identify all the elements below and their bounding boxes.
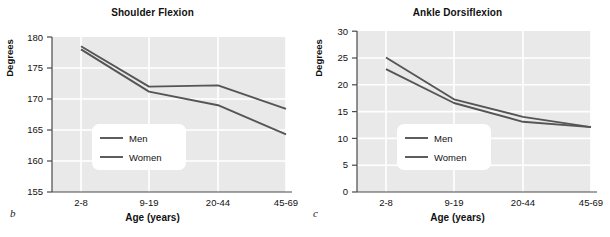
y-tick-label: 30 bbox=[337, 26, 348, 37]
y-tick-label: 160 bbox=[27, 155, 43, 166]
y-tick-label: 170 bbox=[27, 93, 43, 104]
x-tick-label: 2-8 bbox=[74, 197, 88, 208]
x-tick-label: 45-69 bbox=[274, 197, 298, 208]
x-tick-label: 45-69 bbox=[579, 197, 603, 208]
legend-label-women: Women bbox=[129, 152, 162, 163]
x-tick-label: 20-44 bbox=[511, 197, 535, 208]
legend-label-women: Women bbox=[434, 152, 467, 163]
y-tick-label: 5 bbox=[343, 159, 348, 170]
chart-legend: Men Women bbox=[92, 124, 186, 170]
y-axis-ticks bbox=[47, 37, 52, 192]
y-tick-label: 25 bbox=[337, 52, 348, 63]
y-tick-label: 15 bbox=[337, 106, 348, 117]
panel-shoulder-flexion: Shoulder Flexion Degrees Age (years) b bbox=[0, 0, 305, 237]
y-tick-label: 155 bbox=[27, 186, 43, 197]
y-tick-label: 0 bbox=[343, 186, 348, 197]
x-tick-label: 9-19 bbox=[139, 197, 158, 208]
x-tick-label: 9-19 bbox=[444, 197, 463, 208]
chart-plot-shoulder-flexion: 155 160 165 170 175 180 2-8 9-19 20-44 4… bbox=[0, 0, 305, 237]
y-tick-label: 10 bbox=[337, 133, 348, 144]
y-tick-label: 180 bbox=[27, 32, 43, 43]
y-axis-ticks bbox=[352, 31, 357, 192]
chart-legend: Men Women bbox=[397, 124, 491, 170]
legend-box bbox=[397, 124, 491, 170]
panel-ankle-dorsiflexion: Ankle Dorsiflexion Degrees Age (years) c bbox=[305, 0, 610, 237]
legend-label-men: Men bbox=[129, 133, 147, 144]
y-tick-label: 165 bbox=[27, 124, 43, 135]
chart-plot-ankle-dorsiflexion: 0 5 10 15 20 25 30 2-8 9-19 20-44 45-69 … bbox=[305, 0, 610, 237]
figure-container: Shoulder Flexion Degrees Age (years) b bbox=[0, 0, 610, 237]
y-tick-label: 20 bbox=[337, 79, 348, 90]
legend-label-men: Men bbox=[434, 133, 452, 144]
legend-box bbox=[92, 124, 186, 170]
x-tick-label: 2-8 bbox=[379, 197, 393, 208]
y-tick-label: 175 bbox=[27, 62, 43, 73]
x-tick-label: 20-44 bbox=[206, 197, 230, 208]
